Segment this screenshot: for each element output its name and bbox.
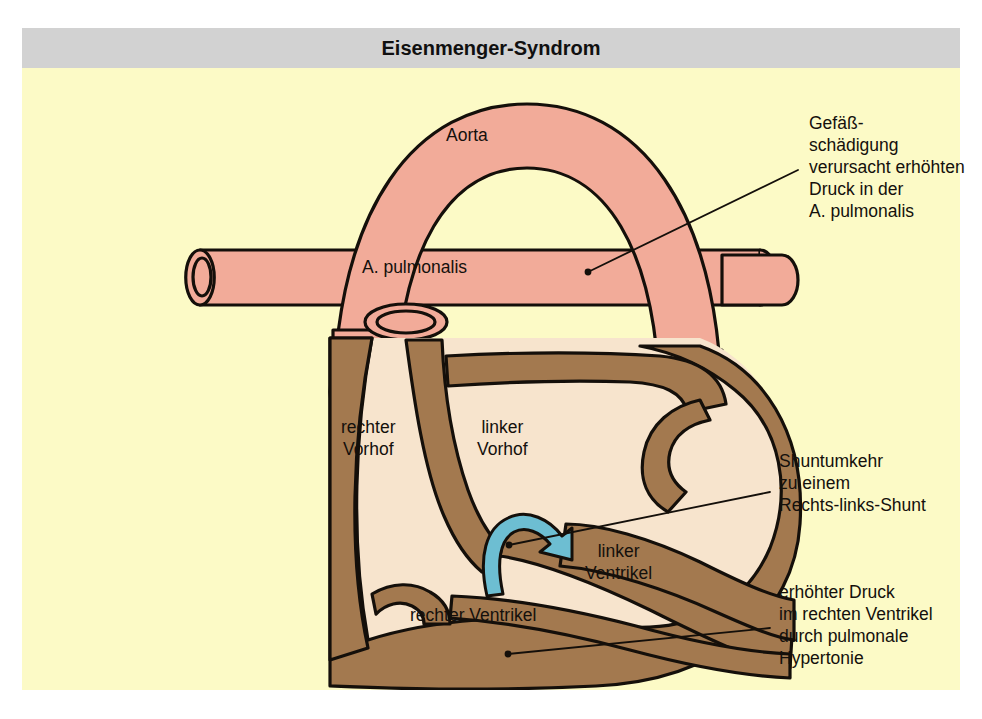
- label-right-ventricle: rechter Ventrikel: [410, 604, 536, 626]
- pulmonary-trunk-ostium: [365, 304, 447, 340]
- annotation-rv-pressure: erhöhter Druck im rechten Ventrikel durc…: [779, 581, 933, 669]
- annotation-vessel-damage: Gefäß- schädigung verursacht erhöhten Dr…: [809, 112, 965, 222]
- label-aorta: Aorta: [446, 124, 488, 146]
- figure-root: Eisenmenger-Syndrom: [0, 0, 982, 719]
- label-pulmonary-artery: A. pulmonalis: [362, 256, 467, 278]
- label-right-atrium: rechter Vorhof: [341, 416, 395, 460]
- annotation-shunt-reversal: Shuntumkehr zu einem Rechts-links-Shunt: [779, 450, 926, 516]
- label-left-ventricle: linker Ventrikel: [585, 540, 652, 584]
- right-pulmonary-branch: [722, 255, 798, 305]
- label-left-atrium: linker Vorhof: [477, 416, 528, 460]
